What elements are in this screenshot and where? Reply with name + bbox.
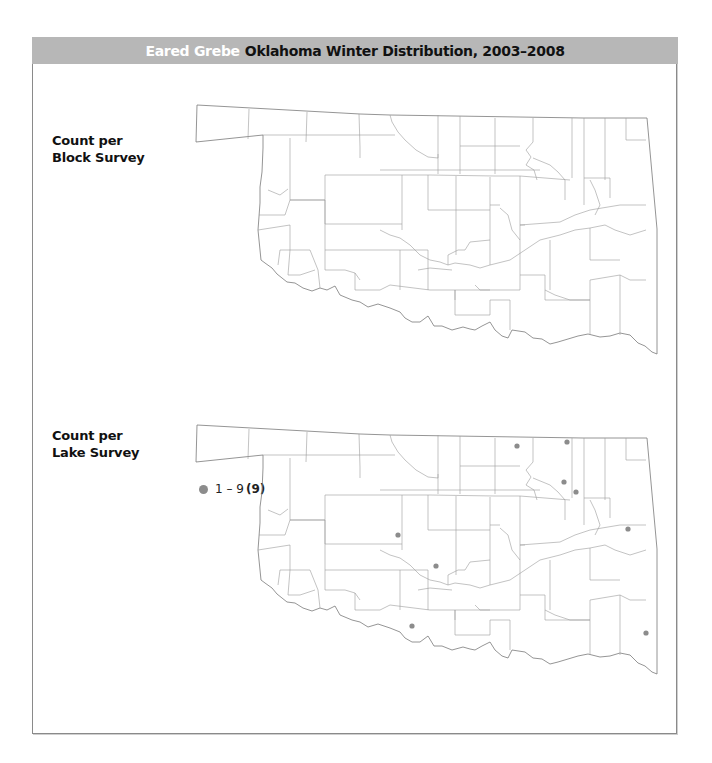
lake-survey-map xyxy=(190,410,670,690)
label-line: Count per xyxy=(52,427,139,444)
survey-point xyxy=(564,439,569,444)
survey-point xyxy=(573,489,578,494)
block-survey-map xyxy=(190,90,670,370)
figure-header: Eared Grebe Oklahoma Winter Distribution… xyxy=(32,37,678,64)
label-line: Lake Survey xyxy=(52,444,139,461)
survey-point xyxy=(514,443,519,448)
block-survey-label: Count per Block Survey xyxy=(52,132,145,166)
species-name: Eared Grebe xyxy=(145,43,239,59)
label-line: Block Survey xyxy=(52,149,145,166)
survey-point xyxy=(625,526,630,531)
survey-point xyxy=(395,532,400,537)
lake-survey-label: Count per Lake Survey xyxy=(52,427,139,461)
survey-points xyxy=(395,439,648,635)
label-line: Count per xyxy=(52,132,145,149)
survey-point xyxy=(643,630,648,635)
survey-point xyxy=(433,563,438,568)
survey-point xyxy=(561,479,566,484)
figure-title: Oklahoma Winter Distribution, 2003–2008 xyxy=(245,43,565,59)
survey-point xyxy=(409,623,414,628)
